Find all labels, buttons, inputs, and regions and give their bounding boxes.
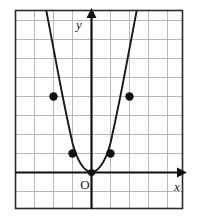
parabola-figure: y x O bbox=[0, 0, 199, 220]
origin-label: O bbox=[80, 177, 89, 192]
y-axis-label: y bbox=[74, 17, 82, 32]
x-axis-label: x bbox=[173, 179, 180, 194]
data-point bbox=[106, 149, 114, 157]
data-point bbox=[49, 92, 57, 100]
data-point bbox=[68, 149, 76, 157]
data-point bbox=[125, 92, 133, 100]
canvas-background bbox=[0, 0, 199, 220]
vertex-point bbox=[88, 169, 95, 176]
coordinate-plane: y x O bbox=[0, 0, 199, 220]
